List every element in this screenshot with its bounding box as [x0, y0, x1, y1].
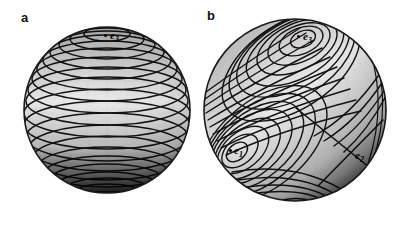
panel-label-b: b	[207, 9, 215, 22]
critical-point-dot-b-e1	[229, 149, 232, 152]
sphere-b-shading	[204, 19, 386, 201]
critical-point-dot-b-e3	[297, 35, 300, 38]
crit-label-subscript-b-e2: 2	[360, 155, 364, 164]
sphere-a-shading	[24, 27, 190, 193]
panel-b-sphere	[178, 0, 389, 225]
critical-point-label-b-e1: e1	[234, 145, 243, 159]
crit-label-subscript-b-e1: 1	[239, 150, 243, 159]
crit-label-subscript-b-e3: 3	[308, 36, 312, 45]
critical-point-dot-a-e3	[104, 34, 107, 37]
critical-point-label-b-e2: e2	[355, 150, 364, 164]
figure-canvas	[0, 0, 407, 225]
panel-a-sphere	[24, 27, 190, 200]
critical-point-label-b-e3: e3	[303, 31, 312, 45]
panel-label-a: a	[21, 11, 28, 24]
crit-label-subscript-a-e3: 3	[115, 35, 119, 44]
contour-sphere-figure: a b e3 e3 e1 e2	[0, 0, 407, 225]
critical-point-label-a-e3: e3	[110, 30, 119, 44]
